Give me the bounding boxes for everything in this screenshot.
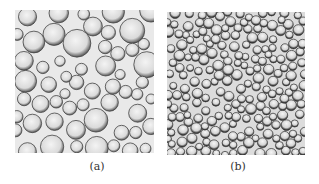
image-panel-a — [15, 10, 154, 153]
bubble-micrograph-small — [167, 12, 305, 155]
bubble-micrograph-large — [15, 10, 154, 153]
caption-a: (a) — [77, 160, 117, 173]
caption-b: (b) — [218, 160, 258, 173]
image-panel-b — [167, 12, 305, 155]
